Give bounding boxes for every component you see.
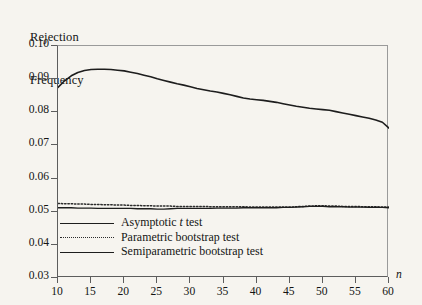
y-tick-label: 0.04 <box>3 236 49 249</box>
x-tick-label: 20 <box>108 285 138 298</box>
x-tick-label: 35 <box>208 285 238 298</box>
x-tick-label: 50 <box>307 285 337 298</box>
y-tick-label: 0.06 <box>3 170 49 183</box>
x-tick-label: 25 <box>141 285 171 298</box>
x-tick-label: 45 <box>274 285 304 298</box>
x-tick-label: 55 <box>340 285 370 298</box>
series-line <box>58 69 389 128</box>
x-tick-label: 40 <box>241 285 271 298</box>
y-tick-label: 0.08 <box>3 103 49 116</box>
y-tick-label: 0.03 <box>3 269 49 282</box>
legend-label: Parametric bootstrap test <box>121 230 239 245</box>
y-tick-label: 0.09 <box>3 70 49 83</box>
legend-line-swatch <box>60 223 114 224</box>
y-tick-label: 0.05 <box>3 203 49 216</box>
y-tick-label: 0.07 <box>3 136 49 149</box>
legend-label: Asymptotic t test <box>121 215 202 230</box>
x-tick-label: 15 <box>75 285 105 298</box>
legend-label: Semiparametric bootstrap test <box>121 244 263 259</box>
x-tick-label: 60 <box>373 285 403 298</box>
x-axis-label: n <box>396 268 402 281</box>
y-tick-label: 0.10 <box>3 37 49 50</box>
chart-canvas: Rejection Frequency 0.100.090.080.070.06… <box>0 0 422 305</box>
legend-line-swatch <box>60 237 114 238</box>
x-tick-label: 10 <box>42 285 72 298</box>
legend-line-swatch <box>60 252 114 253</box>
x-tick-label: 30 <box>174 285 204 298</box>
